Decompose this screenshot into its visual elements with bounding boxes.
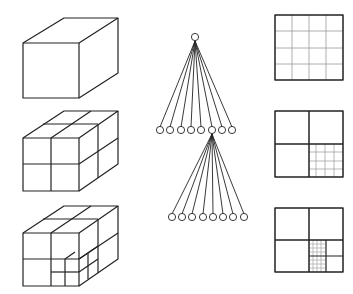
root-node [191,33,198,40]
expanded-node [208,126,215,133]
grid-uniform-4x4 [275,15,343,80]
tree-level-2 [168,126,247,220]
cube-octant-split [23,111,118,191]
cube-undivided [23,18,118,98]
grid-quadrant-fine [275,111,343,177]
grid-subquadrant-fine [275,208,343,272]
cube-second-level-split [23,206,118,286]
tree-level-1 [156,33,235,133]
octree-diagram [0,0,353,294]
